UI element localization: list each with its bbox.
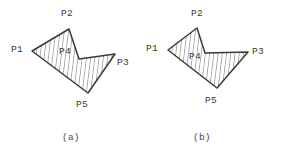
vertex-label-b-p3: P3 (252, 47, 264, 57)
caption-b: (b) (193, 133, 211, 143)
vertex-label-b-p1: P1 (146, 44, 158, 54)
vertex-label-a-p3: P3 (117, 58, 129, 68)
figure-panel-b (142, 0, 284, 156)
vertex-label-b-p4: P4 (189, 52, 201, 62)
vertex-label-a-p4: P4 (59, 47, 71, 57)
vertex-label-b-p2: P2 (191, 9, 203, 19)
caption-a: (a) (62, 133, 80, 143)
vertex-label-b-p5: P5 (205, 96, 217, 106)
vertex-label-a-p5: P5 (76, 100, 88, 110)
vertex-label-a-p1: P1 (11, 45, 23, 55)
vertex-label-a-p2: P2 (61, 9, 73, 19)
figure-canvas: P1 P2 P3 P4 P5 P1 P2 P3 P4 P5 (a) (b) (0, 0, 284, 156)
